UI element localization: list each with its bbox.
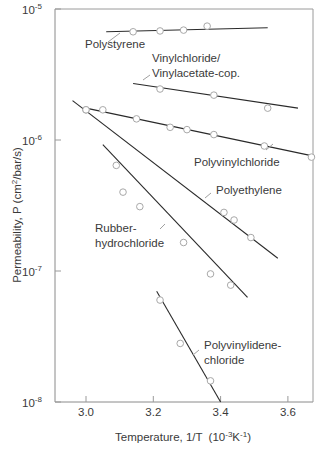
data-point (248, 234, 255, 241)
data-point (100, 107, 107, 114)
data-point (207, 271, 214, 278)
x-tick-label: 3.0 (78, 406, 94, 418)
data-point (157, 297, 164, 304)
leader-line (160, 224, 165, 229)
label-pe: Polyethylene (205, 184, 282, 198)
series-vinylchloride-vinylacetate-cop- (133, 83, 298, 111)
data-point (211, 92, 218, 99)
data-point (211, 131, 218, 138)
data-point (133, 116, 140, 123)
data-point (227, 282, 234, 289)
data-point (207, 378, 214, 385)
series-label-text: chloride (204, 354, 244, 366)
x-axis-ticks: 3.03.23.43.6 (78, 396, 296, 418)
data-point (113, 162, 120, 169)
series-label-text: Polyvinylidene- (204, 339, 282, 351)
permeability-chart: 10-510-610-710-8 3.03.23.43.6 Polystyren… (0, 0, 316, 450)
series-polyethylene (73, 101, 278, 259)
label-polystyrene: Polystyrene (85, 33, 145, 50)
data-point (120, 189, 127, 196)
fit-line (73, 101, 278, 259)
data-point (177, 340, 184, 347)
series-label-text: Rubber- (95, 222, 137, 234)
y-tick-label: 10-8 (22, 395, 42, 409)
x-axis-label: Temperature, 1/T(10-3K-1) (115, 430, 251, 443)
data-point (221, 209, 228, 216)
data-point (184, 126, 191, 133)
data-point (231, 217, 238, 224)
label-pvc_pvac: Vinylchloride/Vinylacetate-cop. (143, 52, 240, 80)
data-point (157, 28, 164, 35)
series-label-text: Polyethylene (216, 184, 282, 196)
data-point (180, 239, 187, 246)
series-label-text: Polystyrene (85, 38, 145, 50)
data-point (137, 203, 144, 210)
data-point (264, 105, 271, 112)
series-labels: PolystyreneVinylchloride/Vinylacetate-co… (85, 33, 282, 366)
x-tick-label: 3.4 (213, 406, 230, 418)
leader-line (193, 350, 199, 355)
y-axis-label: Permeability, P (cm2/bar/s) (10, 147, 23, 283)
data-point (167, 124, 174, 131)
label-pvdc: Polyvinylidene-chloride (193, 339, 282, 366)
data-point (204, 23, 211, 30)
y-tick-label: 10-5 (22, 2, 42, 16)
data-point (180, 27, 187, 34)
data-point (261, 143, 268, 150)
series-polystyrene (106, 23, 268, 35)
label-rhc: Rubber-hydrochloride (95, 222, 165, 249)
x-tick-label: 3.6 (280, 406, 296, 418)
series-label-text: hydrochloride (95, 237, 164, 249)
series-label-text: Vinylchloride/ (152, 52, 221, 64)
x-tick-label: 3.2 (145, 406, 161, 418)
data-point (308, 154, 315, 161)
data-point (157, 86, 164, 93)
series-label-text: Vinylacetate-cop. (152, 67, 240, 79)
data-point (83, 107, 90, 114)
data-point (130, 28, 137, 35)
y-tick-label: 10-7 (22, 264, 42, 278)
series-polyvinylchloride (83, 107, 315, 161)
leader-line (143, 75, 150, 80)
series-label-text: Polyvinylchloride (194, 156, 280, 168)
fit-line (86, 108, 315, 156)
leader-line (205, 193, 211, 198)
y-tick-label: 10-6 (22, 133, 42, 147)
